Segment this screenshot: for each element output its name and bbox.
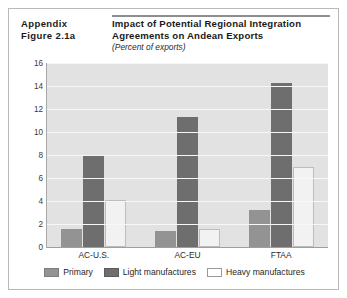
gridline <box>47 155 328 156</box>
bar-heavy[interactable] <box>199 229 220 247</box>
y-tick-label: 14 <box>19 82 43 91</box>
y-tick-label: 10 <box>19 128 43 137</box>
bar-primary[interactable] <box>155 231 176 247</box>
y-axis: 0246810121416 <box>19 57 43 241</box>
chart-legend: PrimaryLight manufacturesHeavy manufactu… <box>9 267 340 277</box>
gridline <box>47 178 328 179</box>
gridline <box>47 63 328 64</box>
chart-title: Impact of Potential Regional Integration… <box>112 18 334 41</box>
y-tick-label: 8 <box>19 151 43 160</box>
legend-swatch-primary <box>44 268 59 277</box>
y-tick-label: 4 <box>19 197 43 206</box>
x-tick-label: FTAA <box>271 250 292 260</box>
bar-primary[interactable] <box>249 210 270 247</box>
title-divider <box>112 15 330 17</box>
y-tick-label: 6 <box>19 174 43 183</box>
legend-label: Light manufactures <box>123 267 196 277</box>
appendix-line-1: Appendix <box>21 18 107 30</box>
legend-label: Primary <box>63 267 93 277</box>
x-axis: AC-U.S.AC-EUFTAA <box>47 250 328 266</box>
x-axis-line <box>47 247 328 248</box>
gridline <box>47 201 328 202</box>
y-tick-label: 16 <box>19 59 43 68</box>
figure-header: Appendix Figure 2.1a Impact of Potential… <box>9 9 340 57</box>
figure-card: Appendix Figure 2.1a Impact of Potential… <box>8 8 339 290</box>
gridline <box>47 109 328 110</box>
y-tick-label: 2 <box>19 220 43 229</box>
legend-swatch-light <box>104 268 119 277</box>
y-tick-label: 0 <box>19 243 43 252</box>
gridline <box>47 86 328 87</box>
appendix-label: Appendix Figure 2.1a <box>21 18 107 41</box>
legend-label: Heavy manufactures <box>226 267 305 277</box>
bar-light[interactable] <box>177 117 198 247</box>
x-tick-label: AC-U.S. <box>78 250 109 260</box>
gridline <box>47 224 328 225</box>
title-block: Impact of Potential Regional Integration… <box>112 18 334 52</box>
plot-wrapper: 0246810121416 AC-U.S.AC-EUFTAA <box>9 57 340 257</box>
legend-item-light[interactable]: Light manufactures <box>104 267 196 277</box>
y-tick-label: 12 <box>19 105 43 114</box>
bar-light[interactable] <box>271 83 292 247</box>
gridline <box>47 132 328 133</box>
bar-primary[interactable] <box>61 229 82 247</box>
chart-subtitle: (Percent of exports) <box>112 42 334 52</box>
x-tick-label: AC-EU <box>174 250 200 260</box>
legend-item-heavy[interactable]: Heavy manufactures <box>207 267 305 277</box>
appendix-line-2: Figure 2.1a <box>21 30 107 42</box>
legend-item-primary[interactable]: Primary <box>44 267 93 277</box>
plot-area <box>47 63 328 247</box>
legend-swatch-heavy <box>207 268 222 277</box>
